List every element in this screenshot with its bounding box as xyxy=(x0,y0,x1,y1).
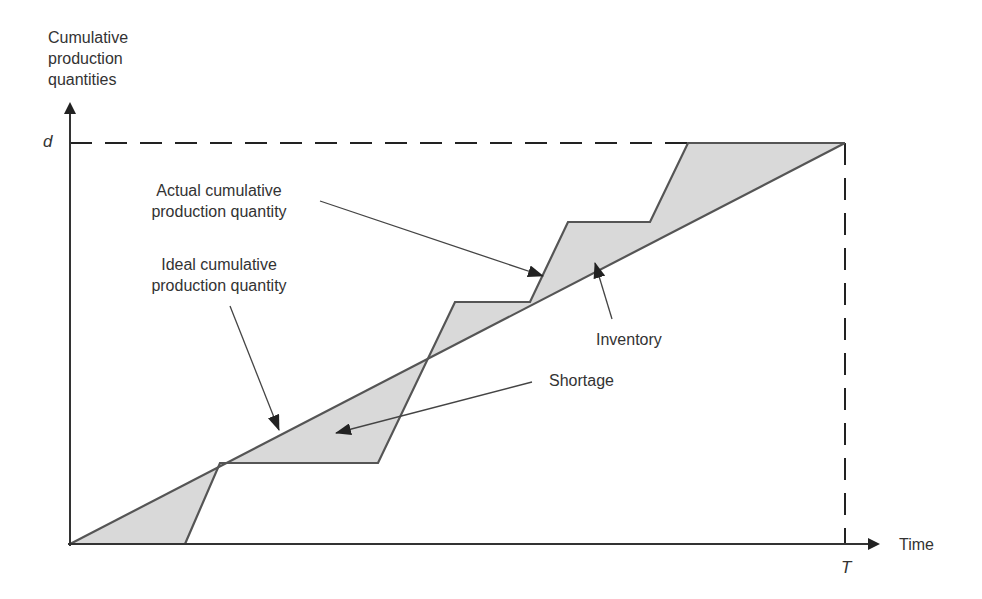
ideal-annotation-line-2: production quantity xyxy=(129,275,309,296)
y-axis-label-line-1: Cumulative xyxy=(48,27,128,48)
x-axis-label: Time xyxy=(899,534,934,555)
ideal-annotation-line-1: Ideal cumulative xyxy=(129,254,309,275)
inventory-label: Inventory xyxy=(596,329,662,350)
d-tick-label: d xyxy=(43,131,52,152)
y-axis-label: Cumulative production quantities xyxy=(48,27,128,90)
ideal-annotation-arrow xyxy=(230,306,279,430)
ideal-annotation-label: Ideal cumulative production quantity xyxy=(129,254,309,296)
actual-annotation-line-2: production quantity xyxy=(129,201,309,222)
y-axis-label-line-3: quantities xyxy=(48,69,128,90)
actual-annotation-label: Actual cumulative production quantity xyxy=(129,180,309,222)
actual-annotation-arrow xyxy=(320,201,543,276)
inventory-annotation-arrow xyxy=(595,263,612,319)
t-tick-label: T xyxy=(841,557,851,578)
shortage-label: Shortage xyxy=(549,370,614,391)
diagram-canvas xyxy=(0,0,982,599)
y-axis-label-line-2: production xyxy=(48,48,128,69)
actual-annotation-line-1: Actual cumulative xyxy=(129,180,309,201)
